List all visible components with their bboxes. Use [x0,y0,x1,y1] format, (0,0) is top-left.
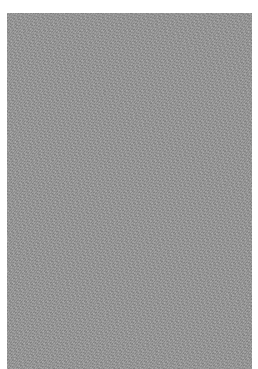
noise-texture-panel [7,13,252,369]
